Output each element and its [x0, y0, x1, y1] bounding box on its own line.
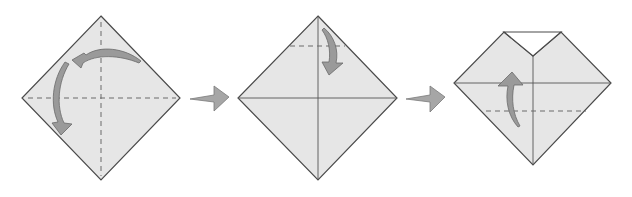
step-3 — [454, 32, 611, 165]
step-1 — [22, 16, 180, 180]
origami-diagram — [0, 0, 632, 197]
step-2 — [238, 16, 397, 180]
step-arrow-icon — [406, 86, 445, 112]
diagram-canvas — [0, 0, 632, 197]
step-arrow-icon — [190, 86, 229, 111]
